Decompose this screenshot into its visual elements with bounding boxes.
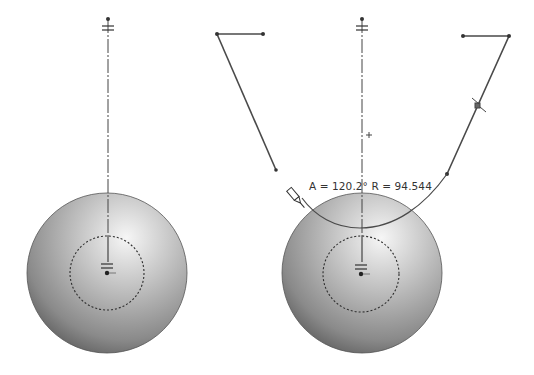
left-polyline-vertex[interactable] [215,32,219,36]
arc-dimension-label: A = 120.2° R = 94.544 [309,180,432,192]
left-origin-point[interactable] [105,271,109,275]
sketch-canvas[interactable] [0,0,534,375]
left-view [27,17,278,353]
tangent-midpoint-marker-icon [472,98,486,112]
left-centerline-endpoint[interactable] [106,17,110,21]
right-origin-point[interactable] [359,272,363,276]
left-sketch-slanted-line[interactable] [217,34,276,170]
pencil-cursor-icon [287,187,307,209]
right-polyline-endpoint[interactable] [461,34,465,38]
crosshair-icon [366,132,372,138]
right-centerline-endpoint[interactable] [360,17,364,21]
left-polyline-endpoint[interactable] [261,32,265,36]
left-polyline-endpoint-bottom[interactable] [274,168,278,172]
right-polyline-vertex[interactable] [507,34,511,38]
